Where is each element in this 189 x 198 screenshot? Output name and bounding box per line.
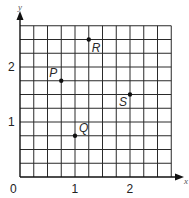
x-tick-label: 2 bbox=[127, 182, 134, 196]
y-tick-label: 1 bbox=[8, 115, 15, 129]
x-tick-label: 0 bbox=[10, 182, 17, 196]
point-label: Q bbox=[79, 121, 88, 135]
point-marker-icon bbox=[59, 79, 63, 83]
point-marker-icon bbox=[73, 134, 77, 138]
point-marker-icon bbox=[87, 37, 91, 41]
point-label: S bbox=[119, 95, 127, 109]
x-tick-label: 1 bbox=[72, 182, 79, 196]
x-axis-arrow-icon bbox=[175, 174, 184, 181]
point-label: R bbox=[92, 41, 101, 55]
point-marker-icon bbox=[128, 92, 132, 96]
coordinate-grid: y x 01212 PQRS bbox=[0, 0, 189, 198]
x-axis-name: x bbox=[183, 176, 188, 186]
point-label: P bbox=[49, 66, 57, 80]
y-axis-name: y bbox=[17, 2, 22, 12]
y-tick-label: 2 bbox=[8, 60, 15, 74]
y-axis-arrow-icon bbox=[17, 11, 24, 20]
